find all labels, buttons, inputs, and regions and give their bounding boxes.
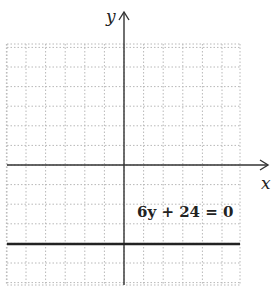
x-axis-label: x: [261, 173, 271, 193]
x-axis: [7, 160, 268, 170]
equation-label: 6y + 24 = 0: [137, 203, 234, 221]
coordinate-graph: y x 6y + 24 = 0: [0, 0, 274, 301]
y-axis-label: y: [105, 6, 116, 26]
